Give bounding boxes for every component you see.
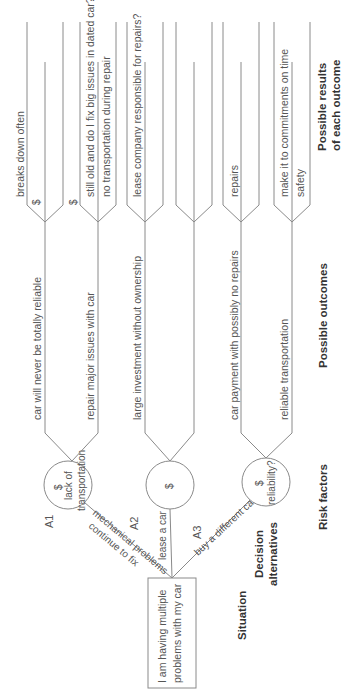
decision-tree-diagram: I am having multiple problems with my ca… [0,0,351,697]
risk-a3-line1: reliability? [266,460,277,505]
outcome-a3-2: reliable transportation [278,319,290,420]
label-possible-outcomes: Possible outcomes [317,263,329,368]
result-a3-2-text: make it to commitments on time [278,49,290,197]
label-situation: Situation [236,591,248,640]
label-decision-line2: alternatives [267,522,279,586]
alt-id-a3: A3 [191,526,203,539]
risk-a1-line1: lack of [63,471,74,500]
outcome-a3-1: car payment with possibly no repairs [228,250,240,420]
situation-text-line1: I am having multiple [156,589,168,683]
result-a1-1-symbol: $ [31,199,42,205]
result-a3-2b-text: safety [294,168,306,197]
risk-a2-symbol: $ [164,483,175,489]
result-a1-2b-text: no transportation during repair [100,56,112,197]
outcome-a1-1: car will never be totally reliable [31,277,43,420]
situation-text-line2: problems with my car [171,583,183,683]
result-a1-2-symbol: $ [68,199,79,205]
outcome-fan-a2 [145,62,194,461]
result-a1-2-text: still old and do I fix big issues in dat… [84,0,96,197]
outcome-a2-1: large investment without ownership [131,256,143,420]
result-a3-1-text: repairs [228,165,240,197]
label-decision-line1: Decision [253,530,265,578]
result-a2-1-text: lease company responsible for repairs? [131,14,143,197]
label-results-line2: of each outcome [330,60,342,151]
alt-a2-label: lease a car [157,510,168,560]
risk-a1-line2: transportation [76,450,87,511]
label-results-line1: Possible results [316,63,328,151]
outcome-a1-2: repair major issues with car [84,292,96,420]
result-a1-1-text: breaks down often [14,111,26,197]
label-risk-factors: Risk factors [317,464,329,530]
alt-id-a2: A2 [128,517,140,530]
alt-id-a1: A1 [43,515,55,528]
risk-a3-symbol: $ [254,480,265,486]
